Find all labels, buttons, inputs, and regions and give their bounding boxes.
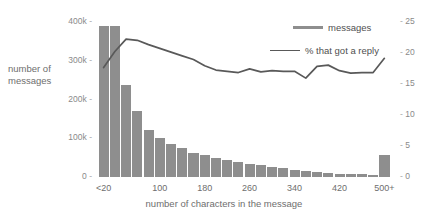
tick-mark: -: [87, 171, 92, 181]
y-tick-label: 5: [405, 140, 410, 150]
legend-label: % that got a reply: [305, 45, 379, 56]
tick-mark: -: [87, 16, 92, 26]
tick-mark: -: [87, 132, 92, 142]
y-tick-right: - 15: [400, 78, 444, 88]
y-tick-right: - 5: [400, 140, 444, 150]
legend-swatch: [270, 50, 300, 52]
y-tick-label: 20: [405, 47, 414, 57]
y-tick-label: 100k: [68, 132, 86, 142]
y-tick-label: 300k: [68, 55, 86, 65]
y-tick-label: 400k: [68, 16, 86, 26]
y-tick-label: 200k: [68, 94, 86, 104]
y-tick-right: - 0: [400, 171, 444, 181]
legend-swatch: [293, 26, 323, 29]
y-tick-label: 0: [405, 171, 410, 181]
plot-area: [98, 18, 390, 177]
y-axis-title: number of messages: [8, 63, 70, 87]
legend-label: messages: [328, 22, 371, 33]
y-tick-label: 25: [405, 16, 414, 26]
y-tick-left: 400k -: [44, 16, 92, 26]
tick-mark: -: [87, 94, 92, 104]
legend-item[interactable]: % that got a reply: [270, 45, 379, 56]
chart-root: number of messages number of characters …: [0, 0, 448, 222]
y-tick-label: 10: [405, 109, 414, 119]
x-tick-label: 500+: [354, 183, 414, 193]
y-tick-left: 300k -: [44, 55, 92, 65]
y-tick-right: - 25: [400, 16, 444, 26]
tick-mark: -: [87, 55, 92, 65]
y-tick-left: 200k -: [44, 94, 92, 104]
x-tick-label: <20: [74, 183, 134, 193]
x-axis-title: number of characters in the message: [0, 198, 448, 209]
y-tick-label: 15: [405, 78, 414, 88]
y-tick-left: 0 -: [44, 171, 92, 181]
y-tick-left: 100k -: [44, 132, 92, 142]
y-tick-right: - 10: [400, 109, 444, 119]
legend-item[interactable]: messages: [293, 22, 371, 33]
y-tick-right: - 20: [400, 47, 444, 57]
